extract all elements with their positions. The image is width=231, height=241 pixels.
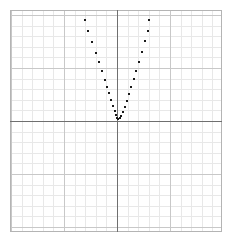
data-point-marker xyxy=(148,19,151,22)
data-point-marker xyxy=(120,115,123,118)
data-point-marker xyxy=(84,19,87,22)
data-point-marker xyxy=(112,105,115,108)
plot-canvas xyxy=(0,0,231,241)
data-point-marker xyxy=(122,111,125,114)
scatter-plot-figure xyxy=(0,0,231,241)
data-point-marker xyxy=(98,61,101,64)
data-point-marker xyxy=(135,70,138,73)
data-point-marker xyxy=(144,40,147,43)
data-point-marker xyxy=(95,52,98,55)
data-point-marker xyxy=(115,114,118,117)
data-point-marker xyxy=(133,78,136,81)
data-point-marker xyxy=(114,110,117,113)
data-point-marker xyxy=(104,79,107,82)
data-point-marker xyxy=(138,61,141,64)
data-point-marker xyxy=(106,86,109,89)
data-point-marker xyxy=(128,93,131,96)
data-point-marker xyxy=(124,106,127,109)
data-point-marker xyxy=(147,30,150,33)
data-point-marker xyxy=(126,100,129,103)
data-point-marker xyxy=(141,51,144,54)
data-point-marker xyxy=(108,92,111,95)
data-point-marker xyxy=(110,99,113,102)
data-point-marker xyxy=(91,41,94,44)
data-point-marker xyxy=(87,30,90,33)
data-point-marker xyxy=(101,70,104,73)
data-point-marker xyxy=(130,86,133,89)
